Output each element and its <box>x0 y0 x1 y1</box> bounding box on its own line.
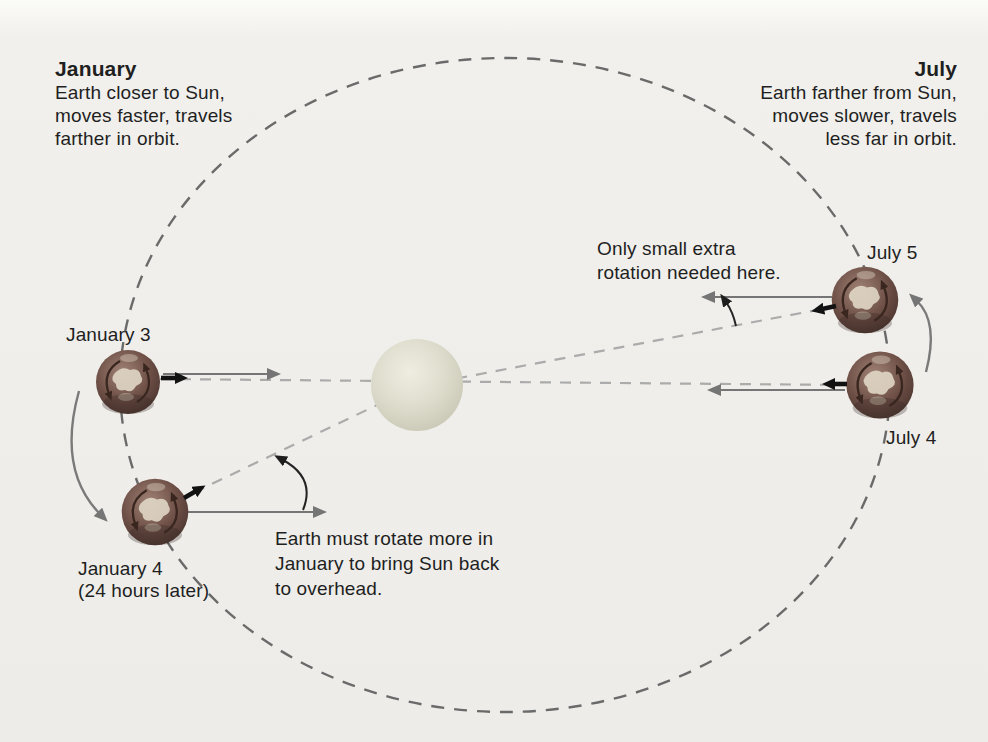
earth-january-3 <box>96 350 160 414</box>
january-desc-line1: Earth closer to Sun, <box>55 81 232 104</box>
note-january-line3: to overhead. <box>275 576 500 601</box>
earth-july-4 <box>846 351 913 418</box>
note-july-line2: rotation needed here. <box>597 261 781 285</box>
orbit-ellipse <box>120 58 890 712</box>
orbit-direction-arrow-july <box>917 301 931 372</box>
january-desc-line3: farther in orbit. <box>55 127 232 150</box>
july-heading: July <box>760 56 957 81</box>
note-january-rotation: Earth must rotate more in January to bri… <box>275 526 500 601</box>
note-july-rotation: Only small extra rotation needed here. <box>597 237 781 285</box>
july-desc-line1: Earth farther from Sun, <box>760 81 957 104</box>
july-desc-line2: moves slower, travels <box>760 104 957 127</box>
note-january-line1: Earth must rotate more in <box>275 526 500 551</box>
earth-july-5 <box>832 267 899 334</box>
january-heading: January <box>55 56 232 81</box>
january-desc-line2: moves faster, travels <box>55 104 232 127</box>
earth-january-4 <box>122 479 189 546</box>
january-caption: January Earth closer to Sun, moves faste… <box>55 56 232 150</box>
july-desc-line3: less far in orbit. <box>760 127 957 150</box>
label-july-4: July 4 <box>886 426 937 449</box>
extra-rotation-arrow-july <box>726 302 736 326</box>
sightline-sun-july5 <box>417 306 838 386</box>
note-january-line2: January to bring Sun back <box>275 551 500 576</box>
extra-rotation-arc-january <box>283 460 307 510</box>
label-january-4: January 4 (24 hours later) <box>78 558 209 602</box>
sun <box>371 339 463 431</box>
sightline-jan3-july4 <box>160 379 846 385</box>
orbit-direction-arrow-january <box>72 391 100 514</box>
label-january-3: January 3 <box>66 323 151 346</box>
noon-marker-arrow-july5 <box>822 306 836 309</box>
orbit-diagram: January Earth closer to Sun, moves faste… <box>0 0 988 742</box>
label-january-4-line2: (24 hours later) <box>78 580 209 602</box>
noon-marker-arrow-jan4 <box>184 491 196 498</box>
label-july-5: July 5 <box>867 241 918 264</box>
label-january-4-line1: January 4 <box>78 558 209 580</box>
note-july-line1: Only small extra <box>597 237 781 261</box>
july-caption: July Earth farther from Sun, moves slowe… <box>760 56 957 150</box>
